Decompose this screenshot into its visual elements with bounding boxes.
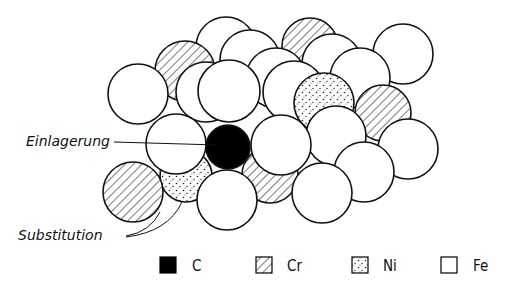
- crystal-lattice-diagram: Einlagerung Substitution C Cr Ni Fe: [0, 0, 522, 302]
- carbon-swatch-icon: [160, 257, 176, 273]
- legend-label-c: C: [192, 257, 201, 275]
- legend-item-c: C: [160, 257, 201, 275]
- legend: C Cr Ni Fe: [160, 257, 488, 275]
- legend-item-ni: Ni: [352, 257, 397, 275]
- legend-label-fe: Fe: [473, 257, 488, 275]
- legend-label-ni: Ni: [383, 257, 397, 275]
- chromium-atom: [103, 162, 163, 222]
- legend-item-fe: Fe: [441, 257, 488, 275]
- carbon-atom: [206, 125, 250, 169]
- iron-atom: [197, 170, 257, 230]
- nickel-swatch-icon: [352, 257, 368, 273]
- legend-label-cr: Cr: [287, 257, 302, 275]
- iron-swatch-icon: [441, 257, 457, 273]
- interstitial-label: Einlagerung: [26, 133, 110, 149]
- iron-atom: [292, 163, 352, 223]
- legend-item-cr: Cr: [256, 257, 302, 275]
- substitution-label: Substitution: [18, 227, 103, 243]
- iron-atom: [108, 64, 168, 124]
- iron-atom: [198, 60, 260, 122]
- atoms-group: [103, 17, 438, 230]
- chromium-swatch-icon: [256, 257, 272, 273]
- iron-atom: [251, 115, 311, 175]
